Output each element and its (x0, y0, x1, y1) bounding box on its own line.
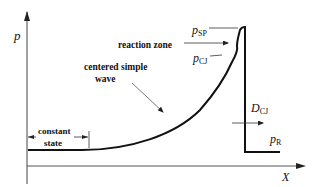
p-cj-label: pCJ (192, 51, 207, 66)
p-sp-label: pSP (191, 23, 207, 38)
y-axis (24, 11, 30, 184)
reaction-zone-label: reaction zone (118, 40, 172, 50)
p-cj-leader (210, 55, 222, 56)
constant-state-label-line2: state (44, 138, 62, 148)
x-axis-label: X (281, 170, 290, 184)
p-r-label: pR (269, 132, 282, 147)
constant-state-label-line1: constant (38, 126, 71, 136)
y-axis-arrow-icon (24, 11, 30, 21)
centered-simple-wave-label-line2: wave (95, 74, 116, 84)
centered-simple-wave-label-line1: centered simple (84, 62, 147, 72)
x-axis (27, 163, 306, 169)
pressure-profile-diagram: p reaction zone centered simple wave con… (0, 0, 318, 187)
y-axis-label: p (13, 28, 21, 43)
d-cj-label: DCJ (250, 101, 268, 116)
simple-wave-arrow (132, 83, 163, 112)
x-axis-arrow-icon (296, 163, 306, 169)
